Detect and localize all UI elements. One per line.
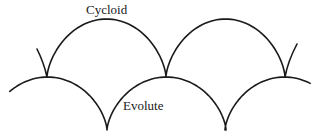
- evolute-label: Evolute: [123, 99, 163, 112]
- diagram-canvas: Cycloid Evolute: [0, 0, 318, 138]
- cycloid-evolute-figure: [0, 0, 318, 138]
- cycloid-label: Cycloid: [86, 3, 127, 16]
- cycloid-curve: [37, 19, 297, 77]
